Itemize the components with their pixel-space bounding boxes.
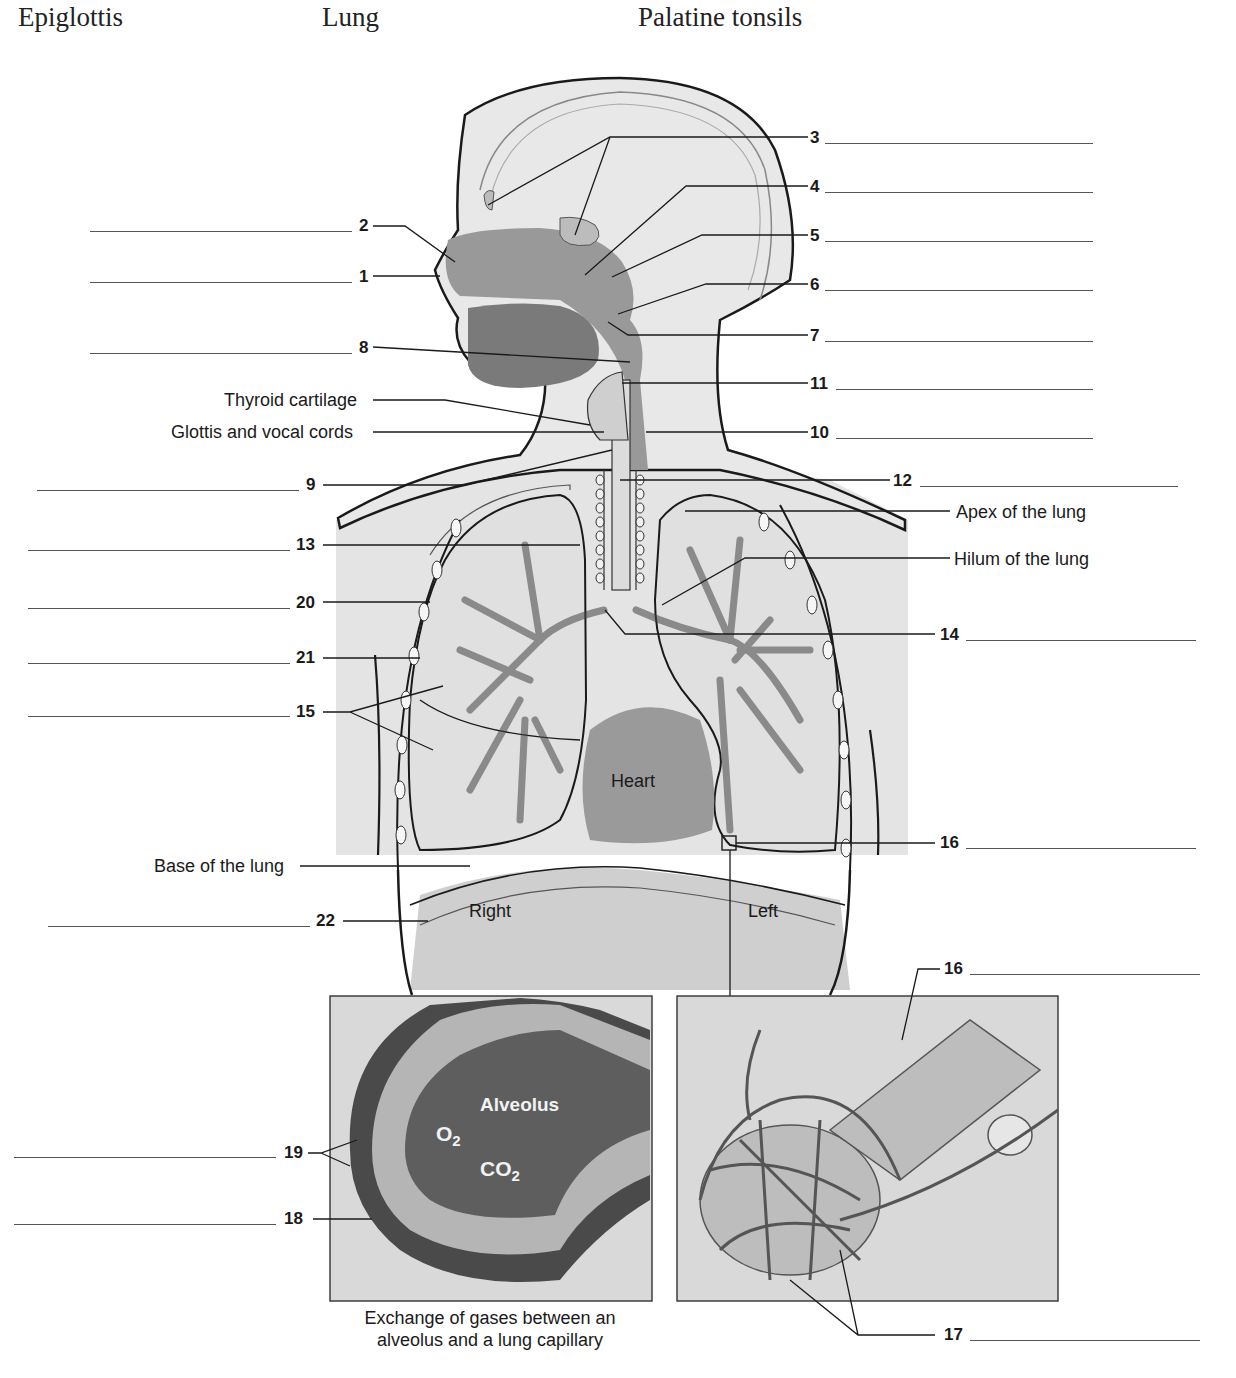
answer-blank-8[interactable] <box>90 353 352 354</box>
answer-blank-21[interactable] <box>28 663 290 664</box>
label-hilum-of-lung: Hilum of the lung <box>954 549 1089 569</box>
alveolus-label: Alveolus <box>480 1094 559 1116</box>
inset-caption: Exchange of gases between an alveolus an… <box>330 1307 650 1351</box>
label-number-13: 13 <box>296 535 315 555</box>
label-glottis-vocal-cords: Glottis and vocal cords <box>171 422 353 442</box>
answer-blank-2[interactable] <box>90 231 352 232</box>
label-number-19: 19 <box>284 1143 303 1163</box>
answer-blank-4[interactable] <box>825 192 1093 193</box>
label-number-8: 8 <box>359 338 368 358</box>
oxygen-label: O2 <box>436 1122 461 1149</box>
right-side-label: Right <box>469 901 511 922</box>
caption-line-2: alveolus and a lung capillary <box>330 1329 650 1351</box>
answer-blank-11[interactable] <box>836 389 1093 390</box>
answer-blank-14[interactable] <box>966 640 1196 641</box>
label-number-14: 14 <box>940 625 959 645</box>
answer-blank-6[interactable] <box>825 290 1093 291</box>
label-number-15: 15 <box>296 702 315 722</box>
label-apex-of-lung: Apex of the lung <box>956 502 1086 522</box>
oxygen-symbol: O <box>436 1122 452 1145</box>
answer-blank-5[interactable] <box>825 241 1093 242</box>
answer-blank-3[interactable] <box>825 143 1093 144</box>
label-thyroid-cartilage: Thyroid cartilage <box>224 390 357 410</box>
carbon-dioxide-symbol: CO <box>480 1157 512 1180</box>
carbon-dioxide-label: CO2 <box>480 1157 520 1184</box>
answer-blank-1[interactable] <box>90 282 352 283</box>
label-base-of-lung: Base of the lung <box>154 856 284 876</box>
answer-blank-17[interactable] <box>970 1340 1200 1341</box>
left-side-label: Left <box>748 901 778 922</box>
label-number-1: 1 <box>359 267 368 287</box>
carbon-dioxide-subscript: 2 <box>512 1167 520 1184</box>
label-number-18: 18 <box>284 1209 303 1229</box>
answer-blank-12[interactable] <box>920 486 1178 487</box>
answer-blank-22[interactable] <box>48 926 310 927</box>
label-number-16-inset: 16 <box>944 959 963 979</box>
label-number-5: 5 <box>810 226 819 246</box>
label-number-12: 12 <box>893 471 912 491</box>
answer-blank-15[interactable] <box>28 716 290 717</box>
label-number-21: 21 <box>296 648 315 668</box>
heart-label: Heart <box>611 771 655 792</box>
answer-blank-16-inset[interactable] <box>970 974 1200 975</box>
answer-blank-10[interactable] <box>836 438 1093 439</box>
answer-blank-13[interactable] <box>28 550 290 551</box>
label-number-22: 22 <box>316 911 335 931</box>
label-number-9: 9 <box>306 475 315 495</box>
answer-blank-7[interactable] <box>825 341 1093 342</box>
label-number-11: 11 <box>810 374 828 394</box>
caption-line-1: Exchange of gases between an <box>330 1307 650 1329</box>
answer-blank-20[interactable] <box>28 608 290 609</box>
answer-blank-9[interactable] <box>37 490 299 491</box>
label-number-2: 2 <box>359 216 368 236</box>
label-number-6: 6 <box>810 275 819 295</box>
answer-blank-19[interactable] <box>14 1157 276 1158</box>
label-number-10: 10 <box>810 423 829 443</box>
label-number-16: 16 <box>940 833 959 853</box>
label-number-7: 7 <box>810 326 819 346</box>
answer-blank-16[interactable] <box>966 848 1196 849</box>
respiratory-system-illustration <box>0 0 1236 1378</box>
label-number-20: 20 <box>296 593 315 613</box>
label-number-4: 4 <box>810 177 819 197</box>
answer-blank-18[interactable] <box>14 1224 276 1225</box>
label-number-17: 17 <box>944 1325 963 1345</box>
oxygen-subscript: 2 <box>452 1132 460 1149</box>
label-number-3: 3 <box>810 128 819 148</box>
